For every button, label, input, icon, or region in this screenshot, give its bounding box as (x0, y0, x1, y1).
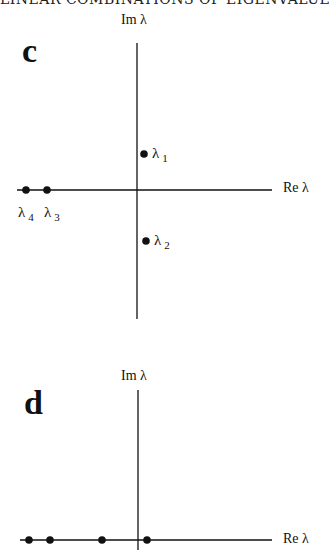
eigenvalue-dot-1 (140, 150, 148, 158)
panel-d-eigenvalue-dot (98, 536, 106, 544)
eigenvalue-dot-4 (22, 186, 30, 194)
panel-d-eigenvalue-dot (46, 536, 54, 544)
panel-d-eigenvalue-dot (143, 536, 151, 544)
panel-d-eigenvalue-dot (25, 536, 33, 544)
eigenvalue-dot-3 (43, 186, 51, 194)
eigenvalue-plots (0, 0, 331, 550)
eigenvalue-dot-2 (142, 237, 150, 245)
